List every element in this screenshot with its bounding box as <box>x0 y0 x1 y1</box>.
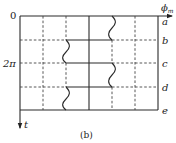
y-tick-0: 0 <box>10 10 16 21</box>
phi-axis-label: ϕm <box>161 2 174 14</box>
row-label-d: d <box>162 82 168 93</box>
wave-d-e <box>63 87 70 110</box>
row-label-e: e <box>162 105 168 116</box>
row-label-a: a <box>162 16 168 27</box>
row-label-c: c <box>162 58 168 69</box>
wave-a-b <box>109 16 116 40</box>
phase-time-diagram: 0 2π ϕm a b c d e t (b) <box>0 0 176 143</box>
phi-subscript: m <box>168 7 174 14</box>
figure-caption: (b) <box>80 130 93 140</box>
wave-c-d <box>109 63 116 87</box>
time-axis-label: t <box>24 119 29 130</box>
wave-b-c <box>63 40 70 63</box>
row-label-b: b <box>162 35 168 46</box>
y-tick-2pi: 2π <box>2 58 16 69</box>
